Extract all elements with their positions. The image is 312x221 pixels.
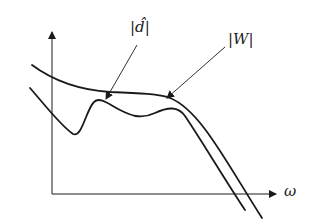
pointer-d-hat <box>106 45 137 99</box>
curve-W <box>32 65 262 218</box>
label-W: |W| <box>228 32 254 47</box>
label-omega: ω <box>284 184 296 199</box>
pointer-W <box>167 47 225 98</box>
label-d-hat: |d̂| <box>130 20 150 35</box>
curve-d-hat <box>30 88 245 210</box>
diagram-canvas <box>0 0 312 221</box>
